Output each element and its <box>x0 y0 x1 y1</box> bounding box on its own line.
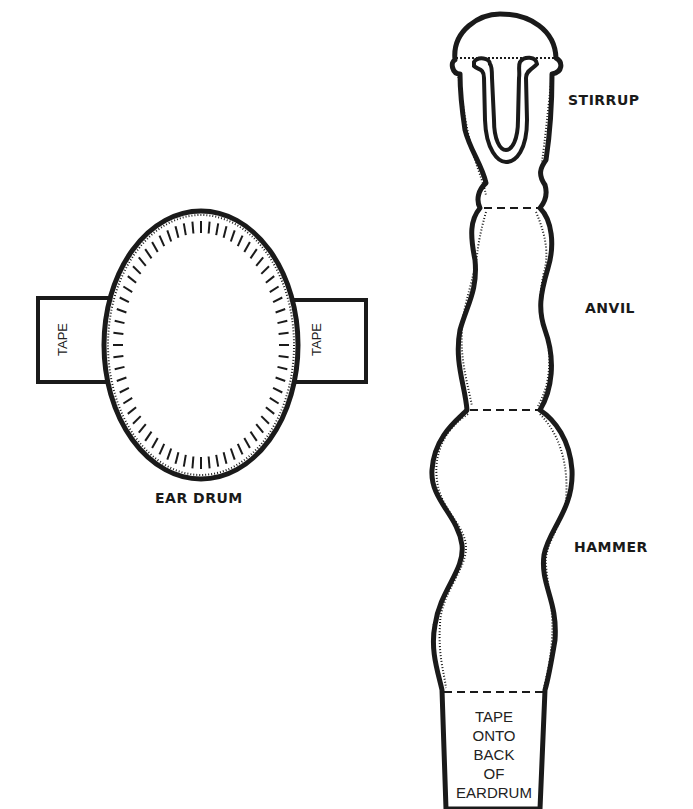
tape-instruction: TAPE ONTO BACK OF EARDRUM <box>447 707 541 802</box>
tape-instruction-line: TAPE <box>447 707 541 726</box>
hammer-label: HAMMER <box>574 539 648 555</box>
anvil-label: ANVIL <box>585 300 635 316</box>
tape-instruction-line: ONTO <box>447 726 541 745</box>
ossicles-strip <box>432 14 572 809</box>
ear-drum-left-tape-tab <box>38 298 110 382</box>
ossicles-outline <box>432 14 572 809</box>
ear-drum-label: EAR DRUM <box>155 490 243 506</box>
left-tape-label: TAPE <box>55 323 70 356</box>
right-tape-label: TAPE <box>309 323 324 356</box>
diagram-canvas <box>0 0 693 809</box>
tape-instruction-line: BACK <box>447 745 541 764</box>
ear-drum-shape <box>104 211 298 479</box>
stirrup-label: STIRRUP <box>568 92 640 108</box>
tape-instruction-line: EARDRUM <box>447 783 541 802</box>
tape-instruction-line: OF <box>447 764 541 783</box>
